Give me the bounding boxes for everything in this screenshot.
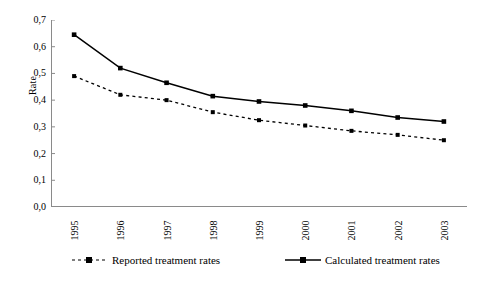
y-tick-label: 0,2 (12, 149, 46, 159)
x-tick-label: 1998 (191, 209, 235, 236)
y-tick-label: 0,7 (12, 15, 46, 25)
series-reported (72, 74, 446, 142)
legend-item-calculated: Calculated treatment rates (285, 254, 440, 266)
y-axis-ticks: 0,00,10,20,30,40,50,60,7 (8, 20, 46, 207)
legend-label-calculated: Calculated treatment rates (325, 254, 440, 266)
x-tick-label: 2003 (422, 209, 466, 236)
y-tick-label: 0,1 (12, 175, 46, 185)
data-point-marker (165, 98, 169, 102)
x-tick-label: 1999 (237, 209, 281, 236)
data-point-marker (395, 115, 400, 120)
data-point-marker (118, 66, 123, 71)
chart-figure: Rate 0,00,10,20,30,40,50,60,7 1995199619… (0, 0, 484, 283)
data-point-marker (349, 129, 353, 133)
x-axis-ticks: 199519961997199819992000200120022003 (51, 209, 467, 253)
data-point-marker (118, 93, 122, 97)
data-point-marker (396, 133, 400, 137)
x-tick-label: 1995 (52, 209, 96, 236)
y-tick-label: 0,6 (12, 42, 46, 52)
data-point-marker (164, 80, 169, 85)
data-point-marker (72, 74, 76, 78)
data-point-marker (442, 138, 446, 142)
plot-svg (51, 20, 467, 207)
data-point-marker (257, 118, 261, 122)
data-point-marker (257, 99, 262, 104)
x-tick-label: 1996 (98, 209, 142, 236)
data-point-marker (303, 124, 307, 128)
y-tick-label: 0,5 (12, 68, 46, 78)
legend-label-reported: Reported treatment rates (112, 254, 220, 266)
data-series-layer (72, 32, 446, 142)
x-tick-label: 1997 (145, 209, 189, 236)
y-tick-label: 0,4 (12, 95, 46, 105)
axis-lines (51, 20, 467, 207)
data-point-marker (72, 32, 77, 37)
y-tick-label: 0,0 (12, 202, 46, 212)
x-tick-label: 2002 (376, 209, 420, 236)
data-point-marker (303, 103, 308, 108)
data-point-marker (349, 109, 354, 114)
y-tick-label: 0,3 (12, 122, 46, 132)
data-point-marker (442, 119, 447, 124)
chart-legend: Reported treatment rates Calculated trea… (0, 254, 484, 274)
x-tick-label: 2000 (283, 209, 327, 236)
plot-area (51, 20, 467, 207)
data-point-marker (210, 94, 215, 99)
legend-swatch-dashed (72, 254, 108, 266)
data-point-marker (211, 110, 215, 114)
legend-swatch-solid (285, 254, 321, 266)
x-tick-label: 2001 (329, 209, 373, 236)
legend-item-reported: Reported treatment rates (72, 254, 220, 266)
series-calculated (72, 32, 446, 123)
